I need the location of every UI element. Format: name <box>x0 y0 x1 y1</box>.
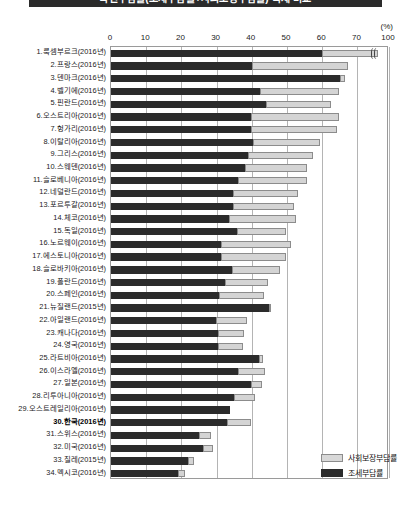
axis-unit-label: (%) <box>381 22 393 31</box>
bar-segment-social <box>251 381 262 388</box>
bar-row <box>111 419 387 426</box>
bar-segment-tax <box>111 203 233 210</box>
bar-row <box>111 101 387 108</box>
x-tick-label-30: 30 <box>211 33 220 42</box>
bar-row <box>111 113 387 120</box>
bar-segment-social <box>199 432 211 439</box>
legend-label-tax: 조세부담률 <box>348 467 383 478</box>
bar-segment-tax <box>111 152 248 159</box>
bar-segment-tax <box>111 88 260 95</box>
bar-segment-tax <box>111 470 178 477</box>
legend-label-social: 사회보장부담률 <box>348 452 397 463</box>
bar-row <box>111 139 387 146</box>
bar-segment-tax <box>111 457 188 464</box>
bar-segment-tax <box>111 368 238 375</box>
bar-segment-social <box>260 88 340 95</box>
bar-row <box>111 394 387 401</box>
category-label-13: 13.포르투갈(2016년) <box>39 201 106 208</box>
category-label-6: 6.오스트리아(2016년) <box>36 112 106 119</box>
category-label-19: 19.폴란드(2016년) <box>46 278 106 285</box>
category-label-15: 15.독일(2016년) <box>53 227 106 234</box>
gridline-100 <box>389 47 390 478</box>
legend: 사회보장부담률 조세부담률 <box>321 452 397 482</box>
x-axis-tick-labels: 010203040506070100 <box>0 33 411 44</box>
category-label-2: 2.프랑스(2016년) <box>50 61 106 68</box>
bar-row <box>111 75 387 82</box>
bar-segment-tax <box>111 177 238 184</box>
category-label-30: 30.한국(2016년) <box>53 418 106 425</box>
bar-row <box>111 445 387 452</box>
bar-group <box>111 47 387 478</box>
bar-segment-social <box>340 75 345 82</box>
bar-segment-tax <box>111 215 229 222</box>
bar-segment-social <box>266 101 330 108</box>
bar-segment-social <box>232 266 280 273</box>
bar-row <box>111 228 387 235</box>
legend-swatch-social-icon <box>321 454 343 462</box>
bar-row <box>111 50 387 57</box>
bar-segment-social <box>238 177 308 184</box>
bar-segment-social <box>203 445 213 452</box>
bar-segment-social <box>221 241 291 248</box>
category-label-32: 32.미국(2016년) <box>53 443 106 450</box>
category-label-5: 5.핀란드(2016년) <box>50 100 106 107</box>
bar-segment-social <box>269 304 271 311</box>
bar-row <box>111 62 387 69</box>
bar-segment-tax <box>111 381 251 388</box>
x-tick-label-70: 70 <box>352 33 361 42</box>
bar-segment-tax <box>111 279 225 286</box>
category-label-26: 26.이스라엘(2016년) <box>39 367 106 374</box>
bar-row <box>111 253 387 260</box>
bar-row <box>111 304 387 311</box>
bar-segment-social <box>251 126 337 133</box>
category-label-3: 3.덴마크(2016년) <box>50 74 106 81</box>
category-label-1: 1.룩셈부르크(2016년) <box>36 49 106 56</box>
bar-row <box>111 88 387 95</box>
bar-row <box>111 343 387 350</box>
bar-segment-tax <box>111 126 251 133</box>
bar-segment-social <box>216 317 247 324</box>
bar-row <box>111 406 387 413</box>
bar-row <box>111 177 387 184</box>
bar-segment-tax <box>111 343 218 350</box>
x-tick-label-60: 60 <box>317 33 326 42</box>
bar-row <box>111 126 387 133</box>
bar-segment-social <box>229 215 297 222</box>
bar-segment-tax <box>111 432 199 439</box>
bar-segment-tax <box>111 228 237 235</box>
bar-row <box>111 368 387 375</box>
category-label-34: 34.멕시코(2016년) <box>46 469 106 476</box>
category-label-28: 28.리투아니아(2016년) <box>32 393 106 400</box>
category-label-column: 1.룩셈부르크(2016년)2.프랑스(2016년)3.덴마크(2016년)4.… <box>0 46 108 479</box>
category-label-8: 8.이탈리아(2016년) <box>43 138 106 145</box>
bar-row <box>111 355 387 362</box>
bar-segment-social <box>252 62 348 69</box>
category-label-7: 7.헝가리(2016년) <box>50 125 106 132</box>
bar-segment-social <box>245 164 307 171</box>
category-label-33: 33.칠레(2015년) <box>53 456 106 463</box>
bar-segment-tax <box>111 419 227 426</box>
bar-segment-social <box>251 113 339 120</box>
bar-row <box>111 432 387 439</box>
legend-item-social: 사회보장부담률 <box>321 452 397 463</box>
category-label-4: 4.벨기에(2016년) <box>50 87 106 94</box>
bar-segment-social <box>248 152 313 159</box>
x-tick-label-40: 40 <box>246 33 255 42</box>
category-label-9: 9.그리스(2016년) <box>50 151 106 158</box>
bar-row <box>111 381 387 388</box>
category-label-27: 27.일본(2016년) <box>53 380 106 387</box>
bar-row <box>111 330 387 337</box>
bar-segment-tax <box>111 292 219 299</box>
category-label-24: 24.영국(2016년) <box>53 342 106 349</box>
bar-segment-tax <box>111 190 233 197</box>
bar-segment-social <box>227 419 251 426</box>
bar-segment-social <box>218 330 244 337</box>
x-tick-label-50: 50 <box>282 33 291 42</box>
bar-row <box>111 241 387 248</box>
bar-segment-tax <box>111 266 232 273</box>
category-label-18: 18.슬로바키아(2016년) <box>32 265 106 272</box>
category-label-25: 25.라트비아(2016년) <box>39 354 106 361</box>
bar-segment-tax <box>111 253 221 260</box>
category-label-20: 20.스페인(2016년) <box>46 291 106 298</box>
bar-segment-tax <box>111 75 340 82</box>
